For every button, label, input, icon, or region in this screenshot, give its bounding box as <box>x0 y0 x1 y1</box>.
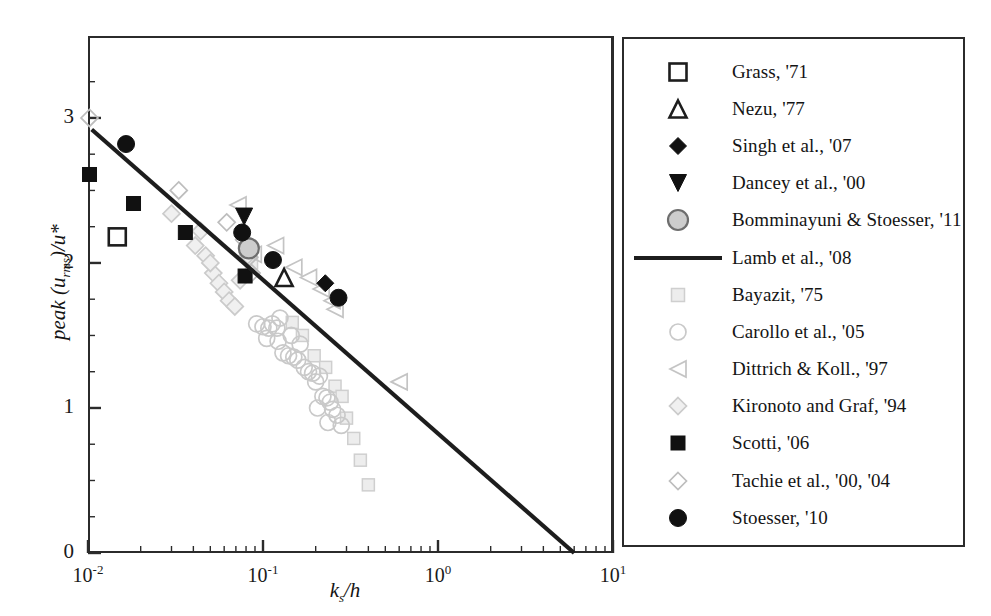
data-point <box>83 167 97 181</box>
legend-item[interactable]: Kironoto and Graf, '94 <box>624 388 963 425</box>
legend-symbol <box>670 509 687 526</box>
data-series-layer <box>81 109 407 490</box>
data-point <box>391 374 407 390</box>
legend-item[interactable]: Stoesser, '10 <box>624 499 963 536</box>
x-tick-exponent: 1 <box>620 562 627 577</box>
y-axis-label: peak (urms)/u* <box>46 162 74 402</box>
x-tick-base: 10 <box>73 564 93 586</box>
data-point <box>308 350 320 362</box>
legend-symbol <box>670 324 686 340</box>
x-tick-exponent: -2 <box>93 562 104 577</box>
series-triangle-down-filled <box>236 208 253 225</box>
legend-symbol <box>668 210 688 230</box>
legend-marker-square-filled-icon <box>624 428 732 458</box>
data-point <box>218 214 235 231</box>
legend-label: Lamb et al., '08 <box>732 247 852 269</box>
x-tick-exponent: -1 <box>268 562 279 577</box>
x-tick-label: 10-2 <box>48 562 128 587</box>
legend-label: Grass, '71 <box>732 61 808 83</box>
legend-marker-line-icon <box>624 243 732 273</box>
legend-item[interactable]: Bomminayuni & Stoesser, '11 <box>624 202 963 239</box>
data-point <box>178 226 192 240</box>
legend-marker-diamond-filled-icon <box>624 131 732 161</box>
legend-marker-square-open-icon <box>624 57 732 87</box>
data-point <box>264 252 281 269</box>
x-tick-label: 101 <box>573 562 653 587</box>
legend-item[interactable]: Bayazit, '75 <box>624 276 963 313</box>
legend-list: Grass, '71Nezu, '77Singh et al., '07Danc… <box>624 39 963 545</box>
data-point <box>170 182 187 199</box>
x-tick-base: 10 <box>425 564 445 586</box>
legend-symbol <box>670 100 687 117</box>
legend-symbol <box>670 472 687 489</box>
legend-symbol <box>670 361 686 377</box>
legend-symbol <box>672 288 685 301</box>
data-point <box>362 479 374 491</box>
x-axis-label: ks/h <box>265 578 425 606</box>
series-diamond-filled <box>317 275 334 292</box>
x-tick-exponent: 0 <box>445 562 452 577</box>
legend-marker-square-light-icon <box>624 280 732 310</box>
legend-label: Tachie et al., '00, '04 <box>732 470 890 492</box>
legend-marker-circle-grey-icon <box>624 205 732 235</box>
legend-item[interactable]: Dancey et al., '00 <box>624 165 963 202</box>
data-point <box>286 259 302 275</box>
data-point <box>118 136 135 153</box>
legend-item[interactable]: Nezu, '77 <box>624 90 963 127</box>
legend-label: Dittrich & Koll., '97 <box>732 358 888 380</box>
legend-label: Nezu, '77 <box>732 98 805 120</box>
fit-line-layer <box>92 130 574 553</box>
legend-marker-triangle-left-light-icon <box>624 354 732 384</box>
legend-label: Bayazit, '75 <box>732 284 823 306</box>
legend-symbol <box>670 175 687 192</box>
data-point <box>268 238 284 254</box>
y-tick-label: 3 <box>34 104 74 129</box>
chart-root: 0123 10-210-1100101 peak (urms)/u* ks/h … <box>0 0 991 616</box>
data-point <box>301 269 317 285</box>
legend-item[interactable]: Grass, '71 <box>624 53 963 90</box>
data-point <box>348 432 360 444</box>
data-point <box>127 196 141 210</box>
legend-label: Carollo et al., '05 <box>732 321 865 343</box>
data-point <box>330 289 347 306</box>
data-point <box>163 205 180 222</box>
legend-item[interactable]: Singh et al., '07 <box>624 127 963 164</box>
legend-marker-circle-filled-icon <box>624 503 732 533</box>
x-axis-label-tail: /h <box>344 578 360 602</box>
legend-marker-diamond-light-icon <box>624 391 732 421</box>
legend-item[interactable]: Tachie et al., '00, '04 <box>624 462 963 499</box>
legend-marker-circle-light-icon <box>624 317 732 347</box>
legend-label: Scotti, '06 <box>732 432 809 454</box>
y-axis-label-pre: peak (u <box>46 278 70 340</box>
legend-item[interactable]: Lamb et al., '08 <box>624 239 963 276</box>
data-point <box>317 275 334 292</box>
legend-symbol <box>670 137 687 154</box>
data-point <box>259 330 275 346</box>
legend-item[interactable]: Dittrich & Koll., '97 <box>624 351 963 388</box>
series-square-filled <box>83 167 253 283</box>
legend-label: Kironoto and Graf, '94 <box>732 395 906 417</box>
legend-item[interactable]: Carollo et al., '05 <box>624 313 963 350</box>
legend-marker-diamond-open-light-icon <box>624 466 732 496</box>
series-square-open <box>109 228 126 245</box>
y-axis-ticks <box>88 82 101 553</box>
legend-label: Dancey et al., '00 <box>732 172 865 194</box>
x-axis-ticks <box>88 540 613 553</box>
data-point <box>236 208 253 225</box>
data-point <box>109 228 126 245</box>
y-tick-label: 0 <box>34 539 74 564</box>
legend-symbol <box>670 398 687 415</box>
x-axis-label-main: k <box>330 578 339 602</box>
y-axis-label-post: )/u* <box>46 224 70 258</box>
legend-symbol <box>670 63 687 80</box>
legend-item[interactable]: Scotti, '06 <box>624 425 963 462</box>
y-axis-label-sub: rms <box>58 258 73 278</box>
data-point <box>354 454 366 466</box>
data-point <box>234 224 251 241</box>
legend-marker-triangle-up-open-icon <box>624 94 732 124</box>
data-point <box>276 269 293 286</box>
legend-marker-triangle-down-filled-icon <box>624 168 732 198</box>
legend-symbol <box>671 436 685 450</box>
legend-label: Stoesser, '10 <box>732 507 828 529</box>
series-triangle-up-open <box>276 269 293 286</box>
